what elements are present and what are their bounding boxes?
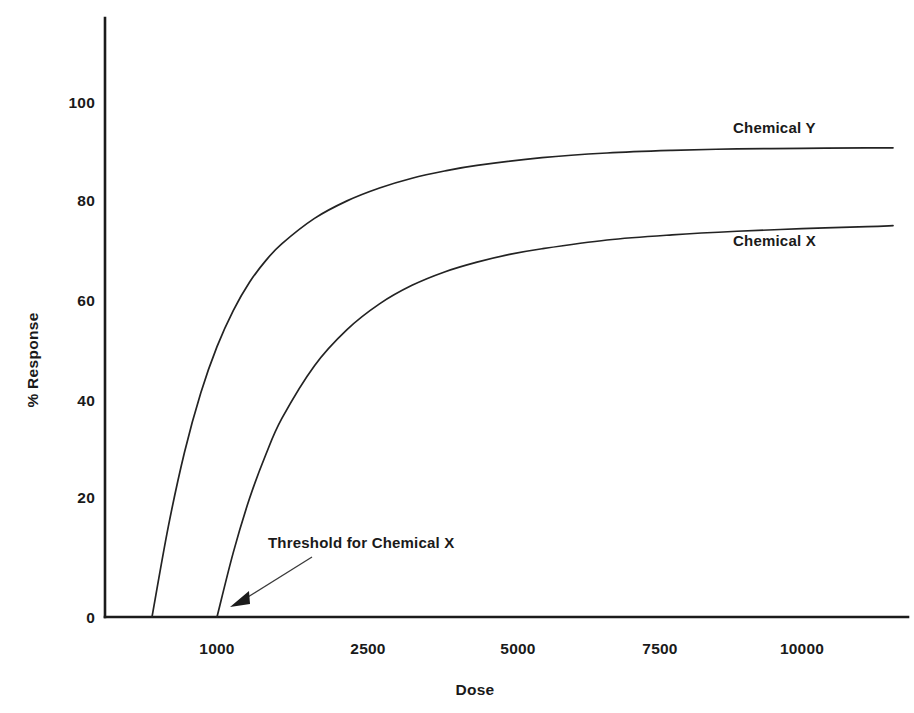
y-tick-label-80: 80 bbox=[77, 192, 95, 209]
x-tick-label-2500: 2500 bbox=[350, 640, 385, 657]
y-tick-label-20: 20 bbox=[77, 489, 95, 506]
y-tick-label-40: 40 bbox=[77, 392, 95, 409]
curve-chemical-y bbox=[152, 148, 893, 617]
series-label-chemical-x: Chemical X bbox=[733, 232, 816, 249]
x-tick-label-5000: 5000 bbox=[500, 640, 535, 657]
threshold-annotation-label: Threshold for Chemical X bbox=[268, 534, 455, 551]
series-label-chemical-y: Chemical Y bbox=[733, 119, 816, 136]
y-tick-label-0: 0 bbox=[86, 609, 95, 626]
threshold-arrow-head bbox=[230, 591, 250, 607]
threshold-arrow-shaft bbox=[243, 557, 312, 600]
y-tick-label-100: 100 bbox=[69, 94, 95, 111]
x-tick-label-10000: 10000 bbox=[780, 640, 824, 657]
y-tick-label-60: 60 bbox=[77, 292, 95, 309]
y-axis-title: % Response bbox=[24, 312, 41, 407]
dose-response-chart: 0 20 40 60 80 100 1000 2500 5000 7500 10… bbox=[0, 0, 914, 713]
x-tick-label-1000: 1000 bbox=[199, 640, 234, 657]
chart-canvas: 0 20 40 60 80 100 1000 2500 5000 7500 10… bbox=[0, 0, 914, 713]
curve-chemical-x bbox=[217, 226, 893, 617]
x-tick-label-7500: 7500 bbox=[642, 640, 677, 657]
x-axis-title: Dose bbox=[455, 681, 494, 698]
